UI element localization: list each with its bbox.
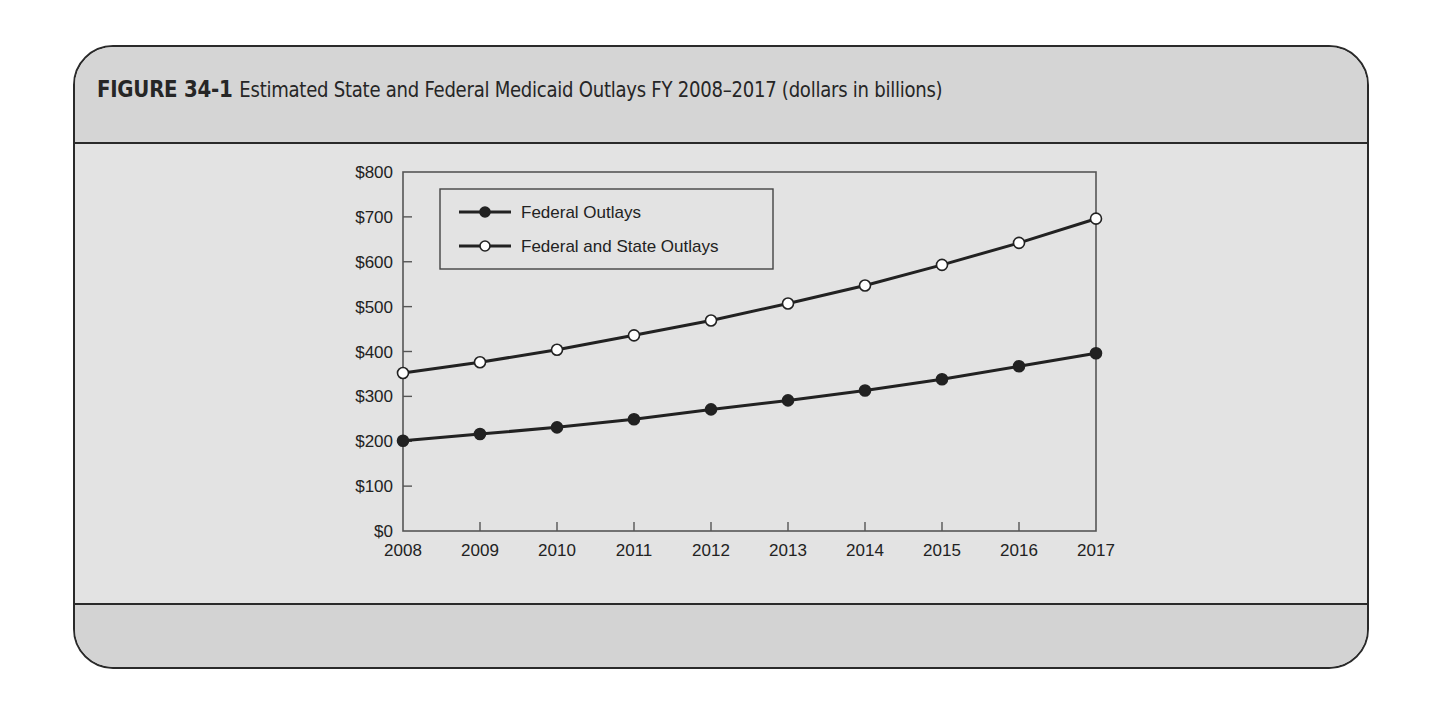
legend: Federal OutlaysFederal and State Outlays [440,189,773,269]
legend-item: Federal and State Outlays [459,237,719,256]
x-axis: 2008200920102011201220132014201520162017 [384,522,1115,560]
filled-marker [552,422,563,433]
open-marker [629,330,640,341]
legend-filled-marker [480,207,490,217]
series-line [403,219,1096,373]
y-tick-label: $200 [355,432,393,451]
plot-border [403,172,1096,531]
filled-marker [1091,348,1102,359]
open-marker [1091,213,1102,224]
y-tick-label: $400 [355,343,393,362]
filled-marker [860,385,871,396]
filled-marker [783,395,794,406]
y-tick-label: $700 [355,208,393,227]
legend-label: Federal Outlays [521,203,641,222]
legend-box [440,189,773,269]
series-layer [398,213,1102,446]
legend-item: Federal Outlays [459,203,641,222]
legend-open-marker [480,241,490,251]
open-marker [706,315,717,326]
series-federal-outlays [398,348,1102,447]
x-tick-label: 2012 [692,541,730,560]
filled-marker [475,429,486,440]
x-tick-label: 2011 [616,541,653,560]
x-tick-label: 2010 [538,541,576,560]
filled-marker [398,435,409,446]
open-marker [783,298,794,309]
y-tick-label: $0 [374,522,393,541]
open-marker [475,357,486,368]
x-tick-label: 2015 [923,541,961,560]
open-marker [398,368,409,379]
filled-marker [629,414,640,425]
series-line [403,353,1096,441]
line-chart: $0$100$200$300$400$500$600$700$800 20082… [0,0,1436,708]
x-tick-label: 2016 [1000,541,1038,560]
y-tick-label: $600 [355,253,393,272]
x-tick-label: 2013 [769,541,807,560]
open-marker [937,259,948,270]
y-tick-label: $800 [355,163,393,182]
filled-marker [937,374,948,385]
x-tick-label: 2014 [846,541,884,560]
x-tick-label: 2009 [461,541,499,560]
open-marker [860,280,871,291]
x-tick-label: 2017 [1077,541,1115,560]
y-tick-label: $300 [355,387,393,406]
filled-marker [706,404,717,415]
filled-marker [1014,361,1025,372]
y-tick-label: $500 [355,298,393,317]
series-federal-and-state-outlays [398,213,1102,378]
open-marker [552,344,563,355]
plot-area [403,172,1096,531]
open-marker [1014,237,1025,248]
x-tick-label: 2008 [384,541,422,560]
legend-label: Federal and State Outlays [521,237,719,256]
y-tick-label: $100 [355,477,393,496]
